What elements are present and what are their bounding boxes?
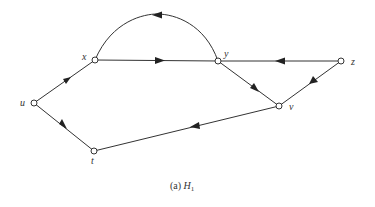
label-x: x bbox=[81, 51, 87, 62]
caption-prefix: (a) bbox=[170, 180, 184, 192]
arrow-x-y-icon bbox=[155, 57, 165, 64]
label-z: z bbox=[350, 56, 355, 67]
node-z bbox=[338, 58, 344, 64]
edge-y-x-arc bbox=[95, 14, 218, 61]
arrow-arc-icon bbox=[152, 12, 162, 19]
arrow-u-x-icon bbox=[63, 77, 71, 84]
arrow-z-v-icon bbox=[309, 76, 318, 84]
arrow-z-y-icon bbox=[275, 58, 285, 65]
figure-caption: (a) H1 bbox=[170, 180, 195, 193]
caption-subscript: 1 bbox=[191, 185, 195, 193]
arrow-v-t-icon bbox=[190, 122, 200, 129]
arrow-y-v-icon bbox=[250, 83, 259, 92]
node-x bbox=[92, 57, 98, 63]
arrow-u-t-icon bbox=[59, 119, 67, 129]
node-v bbox=[276, 103, 282, 109]
label-t: t bbox=[91, 155, 94, 166]
node-t bbox=[91, 148, 97, 154]
edge-v-t bbox=[94, 106, 279, 151]
graph-canvas: u x y z v t (a) H1 bbox=[0, 0, 375, 207]
label-v: v bbox=[289, 101, 294, 112]
label-u: u bbox=[20, 97, 25, 108]
edge-y-v bbox=[218, 61, 279, 106]
label-y: y bbox=[223, 48, 229, 59]
node-y bbox=[215, 58, 221, 64]
node-u bbox=[31, 100, 37, 106]
